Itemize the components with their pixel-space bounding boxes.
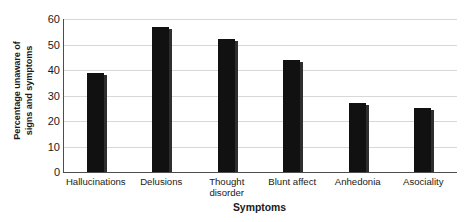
y-axis-tick: 20: [48, 116, 60, 127]
bar: [152, 27, 172, 172]
x-axis-tick: Asociality: [391, 176, 457, 198]
plot-area: [63, 19, 457, 173]
bar-slot: [392, 19, 458, 172]
bar-slot: [261, 19, 327, 172]
x-axis-title: Symptoms: [63, 202, 456, 213]
y-axis-title-line-2: signs and symptoms: [23, 41, 35, 140]
bar-series: [64, 19, 457, 172]
y-axis-tick: 50: [48, 39, 60, 50]
bar: [349, 103, 369, 172]
y-axis-title-line-1: Percentage unaware of: [12, 41, 24, 140]
x-axis-tick: Blunt affect: [260, 176, 326, 198]
x-axis-tick: Hallucinations: [63, 176, 129, 198]
x-axis-tick-labels: HallucinationsDelusionsThought disorderB…: [63, 176, 456, 198]
bar-slot: [64, 19, 130, 172]
y-axis-tick-labels: 0102030405060: [40, 19, 60, 172]
y-axis-tick: 0: [54, 167, 60, 178]
bar-chart-figure: Percentage unaware of signs and symptoms…: [0, 0, 469, 222]
y-axis-tick: 40: [48, 65, 60, 76]
bar: [218, 39, 238, 172]
y-axis-tick: 60: [48, 14, 60, 25]
bar-slot: [326, 19, 392, 172]
bar-slot: [195, 19, 261, 172]
bar: [414, 108, 434, 172]
x-axis-tick: Delusions: [129, 176, 195, 198]
y-axis-tick: 10: [48, 141, 60, 152]
bar: [87, 73, 107, 173]
bar: [283, 60, 303, 172]
bar-slot: [130, 19, 196, 172]
x-axis-tick: Thought disorder: [194, 176, 260, 198]
y-axis-tick: 30: [48, 90, 60, 101]
x-axis-tick: Anhedonia: [325, 176, 391, 198]
